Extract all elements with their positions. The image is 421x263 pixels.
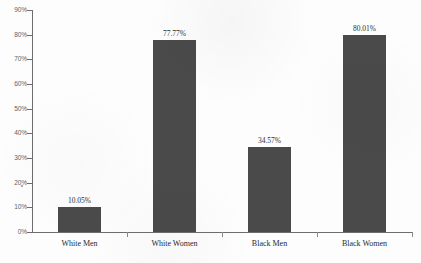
bar xyxy=(343,35,386,232)
y-axis-tick-label: 40% xyxy=(3,130,27,137)
y-axis-tick xyxy=(27,183,32,184)
y-axis-tick-label: 90% xyxy=(3,7,27,14)
bar-value-label: 80.01% xyxy=(325,25,405,33)
x-axis-category-label: White Women xyxy=(125,240,225,248)
x-axis-tick xyxy=(317,232,318,237)
y-axis-tick xyxy=(27,84,32,85)
bar-value-label: 10.05% xyxy=(40,197,120,205)
x-axis-tick xyxy=(127,232,128,237)
y-axis-tick-label: 0% xyxy=(3,229,27,236)
y-axis-tick-label: 60% xyxy=(3,81,27,88)
y-axis-tick xyxy=(27,59,32,60)
y-axis-tick xyxy=(27,207,32,208)
y-axis-tick-label: 50% xyxy=(3,106,27,113)
x-axis-tick xyxy=(222,232,223,237)
y-axis-tick xyxy=(27,10,32,11)
y-axis-tick xyxy=(27,133,32,134)
bar xyxy=(58,207,101,232)
y-axis-tick xyxy=(27,158,32,159)
y-axis-tick-label: 20% xyxy=(3,180,27,187)
bar-value-label: 77.77% xyxy=(135,30,215,38)
y-axis-tick xyxy=(27,109,32,110)
y-axis-tick-label: 70% xyxy=(3,56,27,63)
bar xyxy=(248,147,291,232)
x-axis-category-label: Black Men xyxy=(220,240,320,248)
y-axis-tick-label: 30% xyxy=(3,155,27,162)
y-axis-tick-label: 10% xyxy=(3,204,27,211)
y-axis-line xyxy=(32,10,33,233)
y-axis-tick xyxy=(27,35,32,36)
x-axis-category-label: Black Women xyxy=(315,240,415,248)
bar-value-label: 34.57% xyxy=(230,137,310,145)
x-axis-tick xyxy=(412,232,413,237)
y-axis-tick xyxy=(27,232,32,233)
bar-chart: 0%10%20%30%40%50%60%70%80%90% 10.05%Whit… xyxy=(0,0,421,263)
x-axis-category-label: White Men xyxy=(30,240,130,248)
y-axis-tick-label: 80% xyxy=(3,32,27,39)
bar xyxy=(153,40,196,232)
